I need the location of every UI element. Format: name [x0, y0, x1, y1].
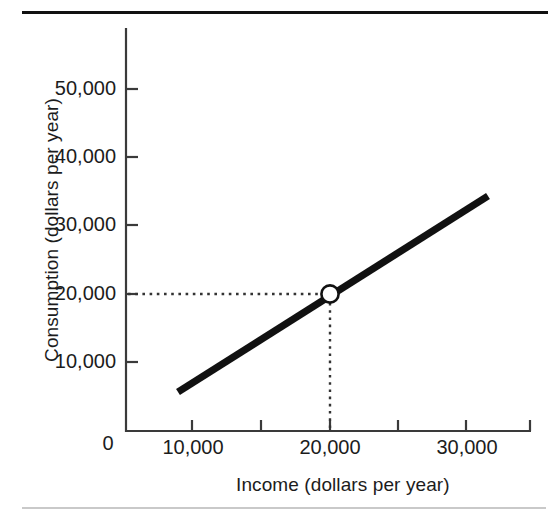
- x-tick-marks: [192, 420, 530, 431]
- equilibrium-point-marker: [321, 285, 338, 302]
- chart-figure: Consumption (dollars per year) Income (d…: [0, 0, 556, 515]
- bottom-divider-rule: [22, 507, 546, 509]
- plot-area: [0, 0, 556, 515]
- y-tick-marks: [126, 89, 138, 362]
